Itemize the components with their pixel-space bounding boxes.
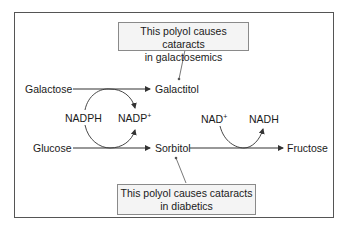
callout-bottom-line2: in diabetics <box>118 200 255 213</box>
nadp-charge: + <box>147 112 151 119</box>
cofactor-nadph: NADPH <box>65 112 102 124</box>
pointer-bottom <box>176 158 186 183</box>
node-fructose: Fructose <box>287 142 328 154</box>
cofactor-nadp-plus: NADP+ <box>118 112 151 124</box>
node-galactose: Galactose <box>25 83 72 95</box>
cofactor-curve-top <box>85 89 135 110</box>
node-sorbitol: Sorbitol <box>155 142 191 154</box>
cofactor-curve-nad <box>220 126 263 148</box>
callout-top-line1: This polyol causes cataracts <box>119 25 248 51</box>
nad-charge: + <box>223 113 227 120</box>
callout-galactosemics: This polyol causes cataracts in galactos… <box>118 22 249 51</box>
nad-text: NAD <box>201 113 223 125</box>
node-galactitol: Galactitol <box>155 83 199 95</box>
cofactor-curve-bottom <box>85 125 135 148</box>
nadp-text: NADP <box>118 112 147 124</box>
cofactor-nad-plus: NAD+ <box>201 113 227 125</box>
callout-bottom-line1: This polyol causes cataracts <box>118 187 255 200</box>
cofactor-nadh: NADH <box>249 113 279 125</box>
callout-diabetics: This polyol causes cataracts in diabetic… <box>117 184 256 215</box>
node-glucose: Glucose <box>33 142 72 154</box>
callout-top-line2: in galactosemics <box>119 51 248 64</box>
